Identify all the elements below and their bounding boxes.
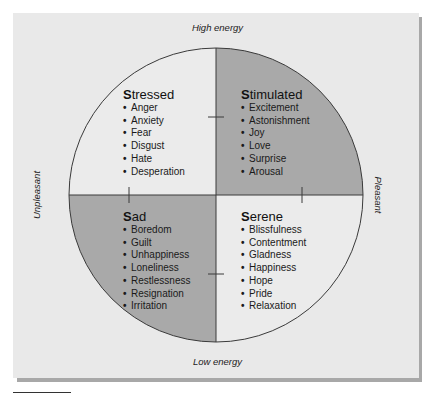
list-item: •Loneliness — [123, 262, 190, 275]
list-item: •Hope — [241, 275, 306, 288]
quadrant-title: Stimulated — [241, 87, 310, 102]
list-item: •Astonishment — [241, 115, 310, 128]
bullet: • — [123, 288, 131, 301]
list-item: •Guilt — [123, 237, 190, 250]
bullet: • — [241, 275, 249, 288]
emotion-label: Disgust — [131, 140, 164, 151]
bullet: • — [123, 127, 131, 140]
list-item: •Resignation — [123, 288, 190, 301]
list-item: •Restlessness — [123, 275, 190, 288]
bullet: • — [241, 153, 249, 166]
list-item: •Joy — [241, 127, 310, 140]
emotion-label: Pride — [249, 288, 272, 299]
list-item: •Irritation — [123, 300, 190, 313]
list-item: •Blissfulness — [241, 224, 306, 237]
list-item: •Unhappiness — [123, 249, 190, 262]
emotion-label: Hate — [131, 153, 152, 164]
emotion-label: Resignation — [131, 288, 184, 299]
emotion-label: Unhappiness — [131, 249, 189, 260]
bullet: • — [241, 262, 249, 275]
list-item: •Love — [241, 140, 310, 153]
bullet: • — [241, 300, 249, 313]
title-initial: S — [241, 87, 250, 102]
emotion-list: •Blissfulness •Contentment •Gladness •Ha… — [241, 224, 306, 313]
emotion-label: Boredom — [131, 224, 172, 235]
bullet: • — [123, 262, 131, 275]
emotion-label: Astonishment — [249, 115, 310, 126]
emotion-list: •Excitement •Astonishment •Joy •Love •Su… — [241, 102, 310, 178]
list-item: •Relaxation — [241, 300, 306, 313]
list-item: •Anger — [123, 102, 185, 115]
list-item: •Surprise — [241, 153, 310, 166]
emotion-label: Hope — [249, 275, 273, 286]
emotion-label: Blissfulness — [249, 224, 302, 235]
emotion-label: Gladness — [249, 249, 291, 260]
axis-label-unpleasant: Unpleasant — [31, 171, 42, 219]
emotion-label: Love — [249, 140, 271, 151]
bullet: • — [123, 140, 131, 153]
axis-label-pleasant: Pleasant — [373, 177, 384, 214]
bullet: • — [123, 166, 131, 179]
bullet: • — [241, 140, 249, 153]
quadrant-stressed: Stressed •Anger •Anxiety •Fear •Disgust … — [123, 87, 185, 178]
quadrant-title: Sad — [123, 209, 190, 224]
emotion-label: Desperation — [131, 166, 185, 177]
list-item: •Arousal — [241, 166, 310, 179]
emotion-label: Arousal — [249, 166, 283, 177]
list-item: •Contentment — [241, 237, 306, 250]
title-rest: ad — [132, 209, 146, 224]
list-item: •Pride — [241, 288, 306, 301]
bullet: • — [123, 237, 131, 250]
title-initial: S — [123, 87, 132, 102]
bullet: • — [123, 153, 131, 166]
bullet: • — [241, 288, 249, 301]
emotion-label: Joy — [249, 127, 265, 138]
emotion-label: Happiness — [249, 262, 296, 273]
footnote-rule — [13, 392, 71, 393]
list-item: •Anxiety — [123, 115, 185, 128]
list-item: •Disgust — [123, 140, 185, 153]
emotion-label: Contentment — [249, 237, 306, 248]
title-rest: tressed — [132, 87, 175, 102]
list-item: •Gladness — [241, 249, 306, 262]
bullet: • — [241, 102, 249, 115]
bullet: • — [123, 115, 131, 128]
list-item: •Desperation — [123, 166, 185, 179]
list-item: •Hate — [123, 153, 185, 166]
bullet: • — [241, 224, 249, 237]
bullet: • — [123, 300, 131, 313]
emotion-label: Relaxation — [249, 300, 296, 311]
emotion-label: Guilt — [131, 237, 152, 248]
bullet: • — [241, 166, 249, 179]
bullet: • — [241, 127, 249, 140]
emotion-label: Irritation — [131, 300, 167, 311]
bullet: • — [123, 249, 131, 262]
emotion-list: •Anger •Anxiety •Fear •Disgust •Hate •De… — [123, 102, 185, 178]
bullet: • — [241, 237, 249, 250]
emotion-label: Excitement — [249, 102, 298, 113]
list-item: •Happiness — [241, 262, 306, 275]
title-rest: erene — [250, 209, 283, 224]
bullet: • — [123, 224, 131, 237]
emotion-label: Fear — [131, 127, 152, 138]
title-rest: timulated — [250, 87, 303, 102]
emotion-list: •Boredom •Guilt •Unhappiness •Loneliness… — [123, 224, 190, 313]
quadrant-stimulated: Stimulated •Excitement •Astonishment •Jo… — [241, 87, 310, 178]
bullet: • — [123, 275, 131, 288]
list-item: •Fear — [123, 127, 185, 140]
emotion-label: Anxiety — [131, 115, 164, 126]
bullet: • — [241, 115, 249, 128]
title-initial: S — [241, 209, 250, 224]
axis-label-high-energy: High energy — [0, 22, 435, 33]
emotion-label: Restlessness — [131, 275, 190, 286]
quadrant-title: Stressed — [123, 87, 185, 102]
emotion-label: Anger — [131, 102, 158, 113]
quadrant-sad: Sad •Boredom •Guilt •Unhappiness •Loneli… — [123, 209, 190, 313]
list-item: •Excitement — [241, 102, 310, 115]
title-initial: S — [123, 209, 132, 224]
mood-circle-diagram — [0, 0, 435, 395]
emotion-label: Surprise — [249, 153, 286, 164]
bullet: • — [123, 102, 131, 115]
quadrant-title: Serene — [241, 209, 306, 224]
list-item: •Boredom — [123, 224, 190, 237]
